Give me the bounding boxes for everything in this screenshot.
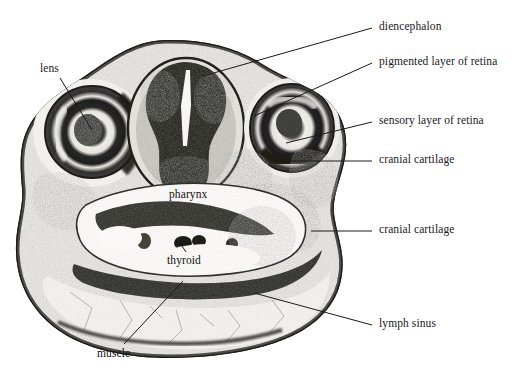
label-cranial-cartilage-upper: cranial cartilage <box>379 153 454 165</box>
label-pharynx: pharynx <box>169 188 207 200</box>
leader-lens <box>60 78 92 130</box>
leader-lymph-sinus <box>254 293 372 325</box>
label-sensory-layer-of-retina: sensory layer of retina <box>379 114 484 126</box>
label-lymph-sinus: lymph sinus <box>379 317 436 329</box>
leader-thyroid <box>178 240 186 252</box>
label-lens: lens <box>40 62 59 74</box>
label-cranial-cartilage-lower: cranial cartilage <box>379 223 454 235</box>
leader-sensory-layer <box>286 122 372 143</box>
label-diencephalon: diencephalon <box>379 20 442 32</box>
label-thyroid: thyroid <box>167 254 201 266</box>
leader-muscle <box>124 281 183 344</box>
leader-pigmented-layer <box>254 63 372 116</box>
label-muscle: muscle <box>97 347 130 359</box>
figure-canvas: lens diencephalon pigmented layer of ret… <box>0 0 529 380</box>
label-pigmented-layer-of-retina: pigmented layer of retina <box>379 55 497 67</box>
leader-diencephalon <box>203 28 372 76</box>
